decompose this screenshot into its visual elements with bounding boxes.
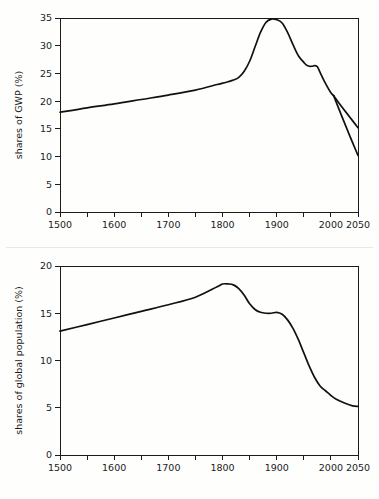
x-tick-label: 1800: [210, 219, 234, 230]
y-tick-label: 20: [40, 96, 52, 107]
y-axis-title: shares of global population (%): [13, 286, 24, 434]
y-tick-label: 35: [40, 12, 52, 23]
x-tick-label: 1500: [48, 462, 72, 473]
x-tick-label: 1600: [102, 219, 126, 230]
y-tick-label: 5: [46, 179, 52, 190]
x-tick-label: 1900: [265, 462, 289, 473]
y-tick-label: 25: [40, 68, 52, 79]
x-tick-label: 2050: [346, 219, 370, 230]
x-tick-label: 1700: [156, 462, 180, 473]
data-curve: [334, 96, 358, 156]
x-tick-label: 1500: [48, 219, 72, 230]
y-tick-label: 30: [40, 40, 52, 51]
x-tick-label: 1600: [102, 462, 126, 473]
panel-separator: [6, 247, 373, 248]
chart-panel-population: 051015201500160017001800190020002050shar…: [0, 250, 379, 499]
chart-panel-gwp: 0510152025303515001600170018001900200020…: [0, 0, 379, 250]
x-tick-label: 2050: [346, 462, 370, 473]
x-tick-label: 2000: [319, 462, 343, 473]
x-tick-label: 2000: [319, 219, 343, 230]
y-tick-label: 20: [40, 260, 52, 271]
gwp-plot-svg: 0510152025303515001600170018001900200020…: [0, 0, 379, 250]
y-tick-label: 0: [46, 449, 52, 460]
data-curve: [334, 96, 358, 128]
x-tick-label: 1700: [156, 219, 180, 230]
data-curve: [60, 19, 334, 112]
y-axis-title: shares of GWP (%): [13, 71, 24, 159]
y-tick-label: 0: [46, 206, 52, 217]
y-tick-label: 10: [40, 355, 52, 366]
y-tick-label: 5: [46, 402, 52, 413]
x-tick-label: 1900: [265, 219, 289, 230]
data-curve: [60, 284, 358, 407]
population-plot-svg: 051015201500160017001800190020002050shar…: [0, 250, 379, 499]
x-tick-label: 1800: [210, 462, 234, 473]
y-tick-label: 15: [40, 123, 52, 134]
y-tick-label: 15: [40, 308, 52, 319]
y-tick-label: 10: [40, 151, 52, 162]
